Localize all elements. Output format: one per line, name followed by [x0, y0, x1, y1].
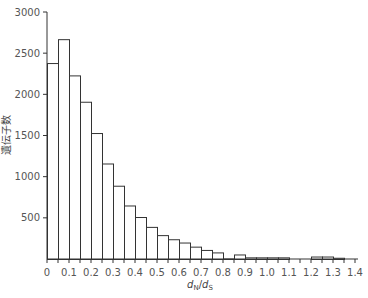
x-tick-label: 0.4: [127, 267, 143, 278]
histogram-bar: [180, 243, 191, 259]
y-tick-label: 2500: [15, 48, 40, 59]
y-tick-label: 1000: [15, 171, 40, 182]
histogram-bar: [48, 64, 59, 260]
histogram-bar: [136, 218, 147, 260]
histogram-bar: [92, 134, 103, 260]
x-tick-label: 0.2: [83, 267, 99, 278]
y-tick-label: 1500: [15, 130, 40, 141]
histogram-bar: [169, 240, 180, 260]
histogram-bar: [81, 102, 92, 259]
y-tick-label: 3000: [15, 7, 40, 18]
y-tick-label: 2000: [15, 89, 40, 100]
histogram-bar: [191, 247, 202, 259]
x-tick-label: 0.6: [171, 267, 187, 278]
histogram-bar: [147, 227, 158, 259]
y-tick-label: 500: [21, 212, 40, 223]
histogram-bar: [114, 186, 125, 259]
x-tick-label: 0.9: [237, 267, 253, 278]
x-tick-label: 0.7: [193, 267, 209, 278]
histogram-bar: [158, 236, 169, 260]
histogram-bar: [70, 76, 81, 260]
histogram-bar: [59, 40, 70, 260]
x-tick-label: 0.1: [61, 267, 77, 278]
y-axis-ticks: 50010001500200025003000: [15, 7, 47, 224]
x-tick-label: 1.1: [281, 267, 297, 278]
y-axis-title: 遺伝子数: [0, 115, 12, 155]
x-tick-label: 0.5: [149, 267, 165, 278]
histogram-bars: [48, 40, 345, 260]
x-tick-label: 1.2: [303, 267, 319, 278]
x-tick-label: 1.3: [325, 267, 341, 278]
histogram-bar: [103, 164, 114, 260]
histogram-chart: 50010001500200025003000 00.10.20.30.40.5…: [0, 0, 368, 298]
x-tick-label: 0.3: [105, 267, 121, 278]
x-tick-label: 1.0: [259, 267, 275, 278]
x-tick-label: 1.4: [347, 267, 363, 278]
x-axis-ticks: 00.10.20.30.40.50.60.70.80.91.01.11.21.3…: [44, 259, 363, 278]
x-tick-label: 0.8: [215, 267, 231, 278]
x-axis-title: dN/dS: [187, 279, 213, 292]
histogram-bar: [125, 206, 136, 260]
histogram-bar: [202, 250, 213, 259]
x-tick-label: 0: [44, 267, 50, 278]
